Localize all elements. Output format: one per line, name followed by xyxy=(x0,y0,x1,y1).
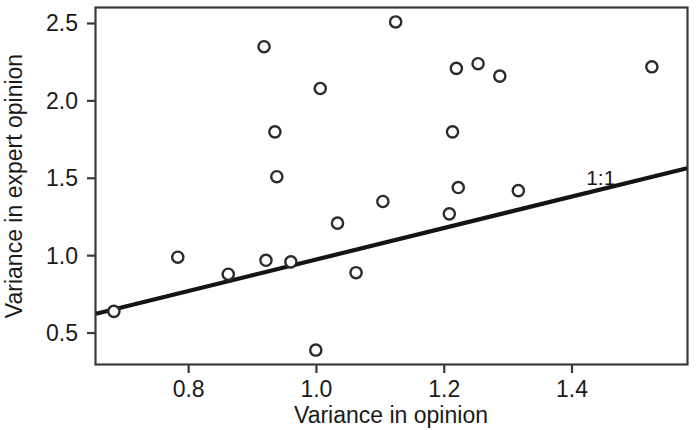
data-point xyxy=(310,344,321,355)
data-point xyxy=(223,269,234,280)
data-point xyxy=(258,41,269,52)
reference-line-label: 1:1 xyxy=(586,166,615,189)
x-axis-title: Variance in opinion xyxy=(294,402,488,428)
y-tick-label: 2.5 xyxy=(46,10,78,36)
data-point xyxy=(269,126,280,137)
data-point xyxy=(315,83,326,94)
y-tick-label: 1.5 xyxy=(46,165,78,191)
y-tick-label: 2.0 xyxy=(46,88,78,114)
x-tick-label: 1.2 xyxy=(428,376,460,402)
data-point xyxy=(172,252,183,263)
y-tick-label: 0.5 xyxy=(46,320,78,346)
x-tick-label: 1.0 xyxy=(300,376,332,402)
x-tick-label: 1.4 xyxy=(556,376,588,402)
x-tick-label: 0.8 xyxy=(173,376,205,402)
data-point xyxy=(472,58,483,69)
data-point xyxy=(513,185,524,196)
data-point xyxy=(494,71,505,82)
data-point xyxy=(447,126,458,137)
data-point xyxy=(646,61,657,72)
data-point xyxy=(377,196,388,207)
y-tick-label: 1.0 xyxy=(46,243,78,269)
data-point xyxy=(108,306,119,317)
data-point xyxy=(285,256,296,267)
y-axis-title: Variance in expert opinion xyxy=(1,54,27,318)
data-point xyxy=(260,255,271,266)
data-point xyxy=(332,218,343,229)
data-point xyxy=(453,182,464,193)
plot-canvas: 0.81.01.21.4 0.51.01.52.02.5 1:1 Varianc… xyxy=(0,0,700,430)
data-point xyxy=(451,63,462,74)
data-point xyxy=(390,16,401,27)
data-point xyxy=(444,208,455,219)
scatter-plot-figure: 0.81.01.21.4 0.51.01.52.02.5 1:1 Varianc… xyxy=(0,0,700,430)
data-point xyxy=(350,267,361,278)
data-point xyxy=(271,171,282,182)
